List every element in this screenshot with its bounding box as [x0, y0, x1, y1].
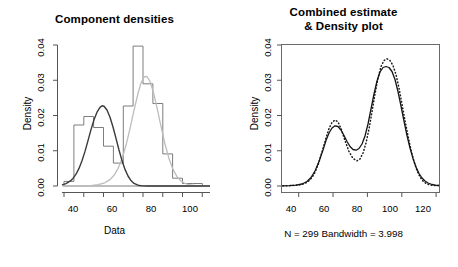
y-axis-left — [53, 45, 58, 186]
right-panel-plot — [229, 0, 458, 267]
y-axis-right — [277, 45, 282, 186]
combined-estimate-curve — [282, 67, 439, 186]
x-axis-left — [62, 193, 210, 198]
figure-canvas: Component densities Density 0.04 0.03 0.… — [0, 0, 458, 267]
component-density-curve-2 — [62, 77, 210, 187]
plot-frame — [282, 45, 440, 193]
left-panel-plot — [0, 0, 229, 267]
x-axis-right — [299, 193, 436, 198]
panel-component-densities: Component densities Density 0.04 0.03 0.… — [0, 0, 229, 267]
panel-combined-estimate: Combined estimate & Density plot Density… — [229, 0, 458, 267]
